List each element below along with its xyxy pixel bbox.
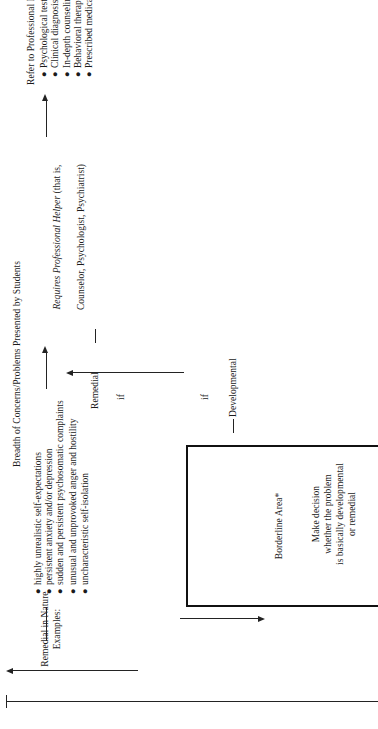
remedial-handler-block: Requires Professional Helper (that is, C… [27,137,99,337]
box-to-remedial-arrowhead [66,371,73,377]
list-item: ● Prescribed medication [84,0,95,77]
decision-box-title: Borderline Area* [274,461,285,591]
axis-to-box-arrowhead [258,617,265,623]
box-to-remedial-line [72,372,184,373]
list-item: ● uncharacteristic self-isolation [80,384,91,594]
list-item: ● persistent anxiety and/or depression [44,384,55,594]
bullet-icon: ● [39,68,50,77]
list-item: ● Behavioral therapy [73,0,84,77]
if-remedial-keyword: if [116,380,127,400]
remedial-branch-stem [12,670,138,671]
list-item: ● Psychological testing [39,0,50,77]
helper-to-refer-line [46,99,47,137]
decision-box-body: Make decision whether the problem is bas… [310,449,358,579]
refer-action-text: Prescribed medication [84,0,95,68]
if-developmental-rule [233,419,234,433]
remedial-example-text: sudden and persistent psychosomatic comp… [55,384,66,585]
refer-actions-block: Refer to Professional Helper who may use… [26,0,93,85]
remedial-handler-line1-suffix: (that is, [52,165,62,196]
breadth-axis-label: Breadth of Concerns/Problems Presented b… [12,199,23,529]
bullet-icon: ● [50,68,61,77]
refer-action-text: In-depth counseling [62,0,73,68]
if-developmental-value: Developmental [228,337,239,417]
bullet-icon: ● [84,68,95,77]
axis-to-box-line [180,618,262,619]
refer-actions-list: ● Psychological testing ● Clinical diagn… [39,0,95,77]
remedial-example-text: uncharacteristic self-isolation [80,384,91,585]
bullet-icon: ● [73,68,84,77]
remedial-handler-line2: Counselor, Psychologist, Psychiatrist) [75,137,87,337]
bullet-icon: ● [62,68,73,77]
remedial-examples-list: ● highly unrealistic self-expectations ●… [33,384,91,594]
breadth-axis-tick-start [6,695,7,708]
list-item: ● unusual and unprovoked anger and hosti… [68,384,79,594]
rotated-figure-wrapper: Breadth of Concerns/Problems Presented b… [0,0,378,729]
if-developmental-keyword: if [200,380,211,400]
list-item: ● In-depth counseling [62,0,73,77]
flowchart-canvas: Breadth of Concerns/Problems Presented b… [0,0,378,729]
refer-action-text: Clinical diagnosis [50,0,61,68]
remedial-example-text: highly unrealistic self-expectations [33,384,44,585]
bullet-icon: ● [68,585,79,594]
remedial-to-helper-line [46,351,47,389]
if-remedial-rule [95,329,96,343]
bullet-icon: ● [80,585,91,594]
bullet-icon: ● [33,585,44,594]
refer-action-text: Psychological testing [39,0,50,68]
list-item: ● sudden and persistent psychosomatic co… [55,384,66,594]
helper-to-refer-arrowhead [42,94,48,101]
list-item: ● Clinical diagnosis [50,0,61,77]
remedial-example-text: unusual and unprovoked anger and hostili… [68,384,79,585]
remedial-branch-arrowhead [6,669,13,675]
remedial-heading-rule [46,607,47,641]
remedial-to-helper-arrowhead [42,346,48,353]
list-item: ● highly unrealistic self-expectations [33,384,44,594]
bullet-icon: ● [55,585,66,594]
refer-action-text: Behavioral therapy [73,0,84,68]
bullet-icon: ● [44,585,55,594]
remedial-example-text: persistent anxiety and/or depression [44,384,55,585]
remedial-handler-line1: Requires Professional Helper [52,196,62,310]
refer-actions-heading: Refer to Professional Helper who may use… [26,0,37,85]
